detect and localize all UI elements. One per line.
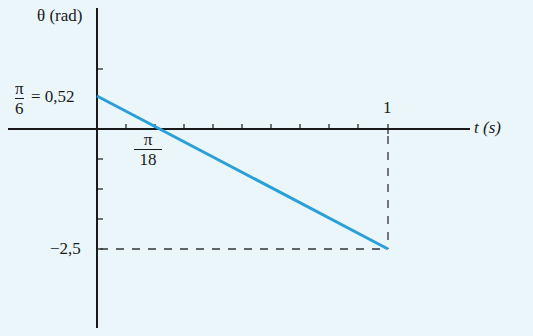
chart-canvas [0,0,533,336]
x-root-den: 18 [140,150,157,170]
y-end-label: −2,5 [50,239,81,259]
x-axis-label-text: t (s) [474,118,501,137]
x-end-label: 1 [383,98,392,118]
y-start-den: 6 [15,99,24,119]
x-axis-label: t (s) [474,118,501,138]
y-start-value: = 0,52 [31,87,75,107]
y-start-num: π [15,80,24,98]
theta-line [97,96,388,249]
y-axis-label: θ (rad) [37,6,82,26]
x-root-num: π [144,131,153,149]
y-start-fraction: π 6 [15,80,24,119]
x-root-fraction: π 18 [134,131,162,170]
